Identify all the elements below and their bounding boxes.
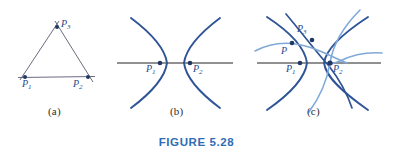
label-p2-panel-c: P2 bbox=[333, 64, 343, 74]
point-p2-panel-c bbox=[327, 60, 332, 65]
point-p-panel-c bbox=[290, 41, 295, 46]
label-p3-panel-a: P3 bbox=[61, 19, 71, 29]
label-subscript: 3 bbox=[67, 23, 71, 31]
triangle-base-line bbox=[18, 77, 95, 78]
panel-c-hyperbolas bbox=[255, 10, 382, 112]
triangle-left-edge bbox=[20, 21, 59, 80]
label-subscript: 2 bbox=[79, 83, 83, 91]
label-subscript: 3 bbox=[303, 28, 307, 36]
point-p1-panel-b bbox=[158, 61, 163, 66]
panel-label-a: (a) bbox=[48, 105, 61, 117]
label-p2-panel-a: P2 bbox=[73, 79, 83, 89]
figure-caption: FIGURE 5.28 bbox=[0, 136, 393, 148]
label-p1-panel-c: P1 bbox=[286, 64, 296, 74]
point-p3-panel-c bbox=[310, 38, 315, 43]
panel-b-hyperbolas bbox=[117, 18, 233, 108]
point-p2-panel-b bbox=[188, 61, 193, 66]
label-subscript: 2 bbox=[199, 68, 203, 76]
label-subscript: 1 bbox=[292, 68, 296, 76]
label-p-panel-c: P bbox=[281, 46, 287, 56]
label-p2-panel-b: P2 bbox=[193, 64, 203, 74]
point-p3-panel-a bbox=[55, 25, 59, 29]
label-p3-panel-c: P3 bbox=[297, 24, 307, 34]
label-p1-panel-a: P1 bbox=[22, 79, 32, 89]
panel-label-b: (b) bbox=[170, 105, 183, 117]
figure-container: P1 P2 P3 P1 P2 P P1 P2 P3 (a) (b) (c) FI… bbox=[0, 0, 393, 164]
hyperbola-light-steep-panel-c bbox=[309, 10, 360, 112]
panel-label-c: (c) bbox=[307, 105, 320, 117]
label-text: P bbox=[281, 45, 287, 56]
label-subscript: 2 bbox=[339, 68, 343, 76]
label-subscript: 1 bbox=[28, 83, 32, 91]
label-subscript: 1 bbox=[152, 68, 156, 76]
point-p2-panel-a bbox=[86, 75, 90, 79]
label-p1-panel-b: P1 bbox=[146, 64, 156, 74]
triangle-right-edge bbox=[55, 21, 93, 82]
point-p1-panel-c bbox=[298, 61, 303, 66]
panel-a-triangle bbox=[18, 21, 95, 82]
